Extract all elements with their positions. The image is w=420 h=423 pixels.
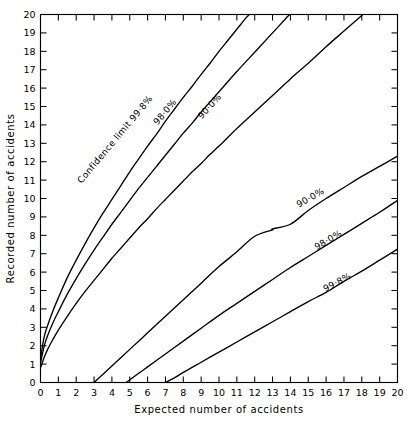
- x-tick-label: 8: [180, 387, 186, 398]
- y-tick-label: 8: [29, 230, 35, 241]
- x-tick-label: 13: [267, 387, 279, 398]
- confidence-limit-chart: 0123456789101112131415161718192001234567…: [0, 0, 420, 423]
- x-tick-label: 0: [37, 387, 43, 398]
- y-tick-label: 12: [23, 156, 35, 167]
- chart-page: 0123456789101112131415161718192001234567…: [0, 0, 420, 423]
- y-tick-label: 18: [23, 46, 35, 57]
- curve-label-upper-99.8: Confidence limit 99·8%: [75, 94, 154, 186]
- y-tick-label: 0: [29, 377, 35, 388]
- y-tick-label: 9: [29, 211, 35, 222]
- x-tick-label: 20: [391, 387, 403, 398]
- x-tick-label: 1: [55, 387, 61, 398]
- x-tick-label: 2: [73, 387, 79, 398]
- curve-lower-99.8: [165, 249, 397, 382]
- x-tick-label: 15: [302, 387, 314, 398]
- y-tick-label: 17: [23, 64, 35, 75]
- y-tick-label: 7: [29, 248, 35, 259]
- y-tick-label: 19: [23, 27, 35, 38]
- x-tick-label: 12: [249, 387, 261, 398]
- curve-lower-90.0: [94, 156, 397, 382]
- y-tick-label: 14: [23, 119, 35, 130]
- curve-upper-98.0: [41, 14, 291, 363]
- x-tick-label: 5: [127, 387, 133, 398]
- curve-label-lower-99.8: 99·8%: [322, 271, 353, 294]
- y-tick-label: 2: [29, 340, 35, 351]
- x-tick-label: 14: [284, 387, 296, 398]
- y-tick-label: 6: [29, 267, 35, 278]
- x-tick-label: 9: [198, 387, 204, 398]
- curve-lower-98.0: [126, 200, 397, 382]
- x-tick-label: 19: [374, 387, 386, 398]
- y-tick-label: 5: [29, 285, 35, 296]
- y-axis-title: Recorded number of accidents: [5, 114, 16, 284]
- x-tick-label: 10: [213, 387, 225, 398]
- x-tick-label: 7: [162, 387, 168, 398]
- y-tick-label: 3: [29, 322, 35, 333]
- y-tick-label: 20: [23, 9, 35, 20]
- curve-label-upper-90.0: 90·0%: [196, 92, 224, 121]
- x-tick-label: 4: [109, 387, 115, 398]
- curve-label-lower-90.0: 90·0%: [295, 186, 326, 210]
- y-tick-label: 1: [29, 359, 35, 370]
- y-tick-label: 11: [23, 175, 35, 186]
- x-tick-label: 11: [231, 387, 243, 398]
- curve-upper-99.8: [41, 15, 250, 359]
- y-tick-label: 16: [23, 83, 35, 94]
- x-tick-label: 18: [356, 387, 368, 398]
- curve-label-lower-98.0: 98·0%: [313, 228, 344, 252]
- x-tick-label: 3: [91, 387, 97, 398]
- y-tick-label: 13: [23, 138, 35, 149]
- plot-frame: [41, 15, 398, 383]
- y-tick-label: 15: [23, 101, 35, 112]
- y-tick-label: 10: [23, 193, 35, 204]
- x-tick-label: 16: [320, 387, 332, 398]
- x-tick-label: 17: [338, 387, 350, 398]
- y-tick-label: 4: [29, 303, 35, 314]
- x-tick-label: 6: [145, 387, 151, 398]
- x-axis-title: Expected number of accidents: [134, 404, 304, 415]
